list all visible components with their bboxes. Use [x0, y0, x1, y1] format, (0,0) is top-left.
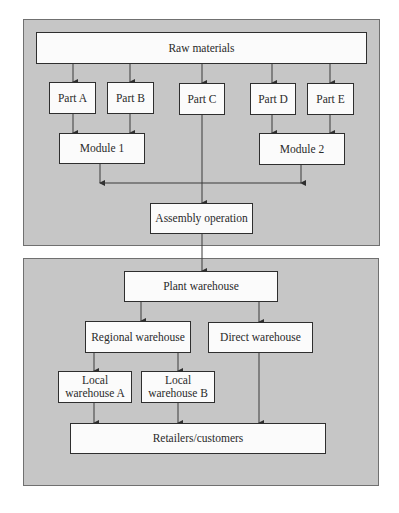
node-local-warehouse-a: Local warehouse A — [58, 371, 132, 403]
node-label: Part C — [187, 93, 216, 106]
node-label: Module 2 — [280, 143, 324, 156]
node-plant-warehouse: Plant warehouse — [124, 271, 278, 302]
node-raw-materials: Raw materials — [36, 32, 367, 64]
node-label: Part A — [58, 92, 87, 105]
node-label: Part D — [258, 93, 288, 106]
node-label: Module 1 — [80, 142, 124, 155]
node-label: Regional warehouse — [91, 331, 185, 344]
node-part-c: Part C — [179, 83, 225, 115]
node-part-d: Part D — [250, 83, 296, 115]
node-regional-warehouse: Regional warehouse — [85, 321, 191, 353]
node-direct-warehouse: Direct warehouse — [208, 322, 313, 353]
node-label: Part B — [116, 92, 145, 105]
node-label: Raw materials — [168, 42, 234, 55]
node-label: Retailers/customers — [153, 432, 244, 445]
node-assembly-operation: Assembly operation — [150, 203, 253, 234]
node-part-e: Part E — [307, 83, 354, 115]
node-local-warehouse-b: Local warehouse B — [141, 371, 215, 403]
node-label: Part E — [316, 93, 344, 106]
node-retailers-customers: Retailers/customers — [70, 423, 326, 454]
node-label: Local warehouse B — [148, 374, 208, 400]
node-label: Plant warehouse — [163, 280, 239, 293]
node-module-1: Module 1 — [59, 133, 145, 164]
node-module-2: Module 2 — [259, 133, 345, 165]
node-label: Direct warehouse — [220, 331, 301, 344]
node-label: Assembly operation — [155, 212, 247, 225]
node-part-b: Part B — [107, 82, 154, 114]
node-label: Local warehouse A — [65, 374, 125, 400]
node-part-a: Part A — [49, 82, 96, 114]
